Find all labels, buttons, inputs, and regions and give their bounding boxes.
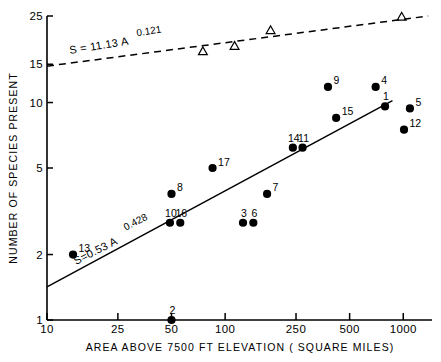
mammal-data-point [332, 114, 340, 122]
data-point-label: 16 [175, 207, 187, 219]
y-axis-title: NUMBER OF SPECIES PRESENT [7, 72, 19, 263]
mammal-data-point [324, 83, 332, 91]
x-tick-label: 10 [40, 323, 54, 335]
mammal-data-point [381, 102, 389, 110]
mammal-data-point [166, 219, 174, 227]
data-point-label: 9 [333, 74, 339, 86]
x-tick-label: 500 [339, 323, 359, 335]
data-point-label: 17 [218, 156, 230, 168]
x-axis-title: AREA ABOVE 7500 FT ELEVATION ( SQUARE MI… [86, 341, 395, 353]
mammal-data-point [263, 190, 271, 198]
y-tick-label: 10 [29, 97, 43, 109]
mammal-data-point [406, 104, 414, 112]
data-point-label: 7 [273, 181, 279, 193]
data-point-label: 4 [381, 74, 387, 86]
mammal-data-point [249, 219, 257, 227]
mammal-data-point [167, 316, 175, 324]
mammal-data-point [167, 190, 175, 198]
x-tick-label: 250 [286, 323, 306, 335]
data-point-label: 1 [383, 90, 389, 102]
data-point-label: 8 [177, 181, 183, 193]
x-tick-label: 1000 [390, 323, 417, 335]
mammal-data-point [208, 164, 216, 172]
data-point-label: 5 [415, 96, 421, 108]
y-tick-label: 5 [36, 162, 43, 174]
data-point-label: 6 [251, 207, 257, 219]
plot-background [0, 0, 441, 362]
y-tick-label: 15 [29, 58, 43, 70]
chart-figure: 125101525 1025501002505001000 1321016817… [0, 0, 441, 362]
mammal-data-point [289, 144, 297, 152]
data-point-label: 11 [298, 132, 309, 144]
mammal-data-point [298, 144, 306, 152]
data-point-label: 15 [342, 105, 354, 117]
data-point-label: 3 [241, 207, 247, 219]
mammal-data-point [176, 219, 184, 227]
x-tick-label: 100 [215, 323, 235, 335]
mammal-data-point [239, 219, 247, 227]
mammal-data-point [400, 126, 408, 134]
x-tick-label: 25 [111, 323, 125, 335]
y-tick-label: 2 [36, 249, 43, 261]
species-area-scatter-plot: 125101525 1025501002505001000 1321016817… [0, 0, 441, 362]
y-tick-label: 25 [29, 10, 43, 22]
data-point-label: 2 [170, 304, 176, 316]
data-point-label: 12 [410, 117, 422, 129]
mammal-data-point [372, 83, 380, 91]
x-tick-label: 50 [165, 323, 179, 335]
